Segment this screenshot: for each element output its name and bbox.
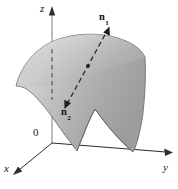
y-axis-label: y xyxy=(163,162,168,173)
normal-vector-n2-label: n2 xyxy=(61,107,70,120)
normal-vector-n2-subscript: 2 xyxy=(67,114,71,122)
normal-vector-n1-letter: n xyxy=(99,11,105,22)
y-axis xyxy=(52,143,173,156)
x-axis-arrowhead xyxy=(13,166,22,175)
z-axis-arrowhead xyxy=(49,6,55,16)
y-axis-arrowhead xyxy=(164,149,173,156)
x-axis xyxy=(13,143,52,175)
normal-vector-n1-subscript: 1 xyxy=(105,19,109,27)
normal-base-point xyxy=(86,64,90,68)
x-axis-shaft xyxy=(19,143,52,170)
x-axis-label: x xyxy=(4,163,9,174)
figure-container: z y x 0 n1 n2 xyxy=(0,0,178,189)
y-axis-shaft xyxy=(52,143,166,152)
normal-vector-n2-letter: n xyxy=(61,106,67,117)
normal-vector-n1-label: n1 xyxy=(99,12,108,25)
figure-canvas xyxy=(0,0,178,189)
normal-vector-n1-arrowhead xyxy=(103,27,110,36)
origin-label: 0 xyxy=(33,127,39,138)
z-axis-label: z xyxy=(40,3,44,14)
